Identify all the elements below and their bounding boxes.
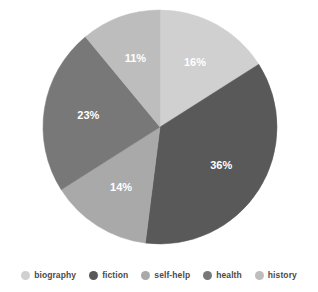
pie-slice-label-self-help: 14% [110,181,132,193]
pie-slice-label-fiction: 36% [210,159,232,171]
legend-label: health [216,271,242,280]
legend-item-history[interactable]: history [255,271,297,280]
legend-item-self-help[interactable]: self-help [141,271,190,280]
pie-slice-label-history: 11% [125,52,147,64]
pie-svg: 16%36%14%23%11% [0,0,318,252]
legend-item-fiction[interactable]: fiction [89,271,128,280]
chart-legend: biographyfictionself-helphealthhistory [0,262,318,288]
pie-slices-group [43,10,277,244]
legend-swatch-icon-health [203,271,212,280]
legend-swatch-icon-fiction [89,271,98,280]
legend-swatch-icon-self-help [141,271,150,280]
legend-label: self-help [154,271,190,280]
legend-swatch-icon-biography [21,271,30,280]
pie-chart-figure: 16%36%14%23%11% biographyfictionself-hel… [0,0,318,292]
pie-slice-label-health: 23% [77,109,99,121]
pie-slice-label-biography: 16% [184,56,206,68]
legend-item-health[interactable]: health [203,271,242,280]
pie-plot-area: 16%36%14%23%11% [0,0,318,252]
legend-label: fiction [102,271,128,280]
legend-swatch-icon-history [255,271,264,280]
legend-label: history [268,271,297,280]
legend-label: biography [34,271,76,280]
legend-item-biography[interactable]: biography [21,271,76,280]
